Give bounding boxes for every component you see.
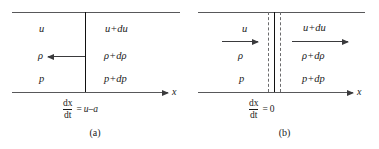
panel-a-equals-sign: = xyxy=(77,104,82,114)
panel-b-left-density-label: ρ xyxy=(238,50,243,61)
panel-a-wave-speed-equation: dx dt = u–a xyxy=(62,98,98,120)
arrowhead-glyph xyxy=(342,39,349,45)
panel-b-downstream-flow-arrow xyxy=(292,41,348,42)
panel-b-wave-speed-equation: dx dt = 0 xyxy=(248,98,275,120)
panel-a-axis-label: x xyxy=(172,86,176,97)
panel-b-caption: (b) xyxy=(190,127,379,138)
arrowhead-glyph xyxy=(347,90,354,96)
panel-b-right-pressure-label: p+dp xyxy=(302,73,325,84)
panel-b-top-boundary xyxy=(198,12,365,13)
panel-a-right-velocity-label: u+du xyxy=(105,23,128,34)
panel-a-caption: (a) xyxy=(0,127,190,138)
panel-a-x-axis-arrowhead xyxy=(160,92,168,93)
figure-container: x u ρ p u+du ρ+dρ p+dp dx dt = u–a (a) xyxy=(0,0,379,149)
panel-a-top-boundary xyxy=(12,12,180,13)
panel-a-left-velocity-label: u xyxy=(39,23,44,34)
panel-a-x-axis xyxy=(12,92,168,93)
arrowhead-glyph xyxy=(47,54,54,60)
panel-a-left-pressure-label: p xyxy=(39,73,44,84)
panel-a-fraction-denominator: dt xyxy=(63,109,72,121)
panel-b-upstream-flow-arrow xyxy=(222,41,258,42)
panel-a-right-pressure-label: p+dp xyxy=(104,73,127,84)
panel-b-left-velocity-label: u xyxy=(242,23,247,34)
panel-b-equation-rhs: 0 xyxy=(270,104,275,114)
panel-a-derivative-fraction: dx dt xyxy=(62,98,74,120)
panel-a: x u ρ p u+du ρ+dρ p+dp dx dt = u–a (a) xyxy=(0,0,190,149)
panel-b-left-pressure-label: p xyxy=(239,73,244,84)
panel-b-x-axis xyxy=(198,92,353,93)
arrowhead-glyph xyxy=(252,39,259,45)
panel-b-derivative-fraction: dx dt xyxy=(248,98,260,120)
panel-b-right-density-label: ρ+dρ xyxy=(302,50,324,61)
panel-b-equals-sign: = xyxy=(263,104,268,114)
panel-a-fraction-numerator: dx xyxy=(62,98,74,109)
panel-a-equation-rhs: u–a xyxy=(84,104,98,114)
panel-a-wave-front-line xyxy=(85,12,86,92)
panel-b-fraction-denominator: dt xyxy=(249,109,258,121)
panel-b-fraction-numerator: dx xyxy=(248,98,260,109)
panel-a-left-flow-arrow xyxy=(48,56,85,57)
arrowhead-glyph xyxy=(162,90,169,96)
panel-b-axis-label: x xyxy=(357,86,361,97)
panel-b-control-volume-left-dashed-line xyxy=(268,12,269,92)
panel-b-control-volume-right-dashed-line xyxy=(280,12,281,92)
panel-b: x u ρ p u+du ρ+dρ p+dp dx dt = 0 (b) xyxy=(190,0,379,149)
panel-a-right-density-label: ρ+dρ xyxy=(104,50,126,61)
panel-b-x-axis-arrowhead xyxy=(345,92,353,93)
panel-a-left-density-label: ρ xyxy=(38,50,43,61)
panel-b-wave-front-line xyxy=(274,12,275,92)
panel-b-right-velocity-label: u+du xyxy=(303,22,326,33)
